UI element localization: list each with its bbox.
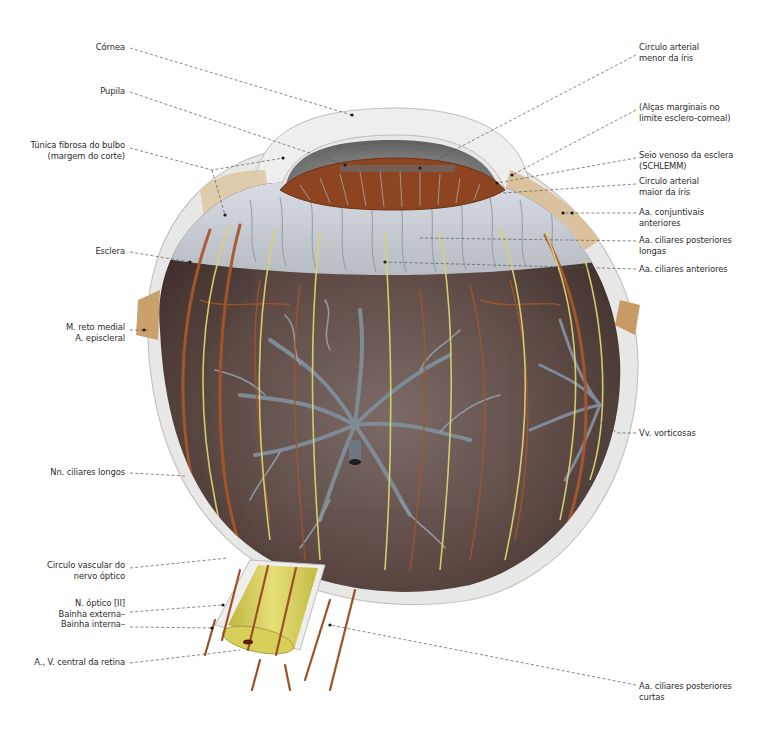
- eyeball-vascular-diagram: Córnea Pupila Túnica fibrosa do bulbo (m…: [0, 0, 767, 744]
- pupil-margin: [340, 165, 455, 172]
- label-esclera: Esclera: [95, 246, 125, 257]
- label-nn-ciliares-longos: Nn. ciliares longos: [50, 467, 125, 478]
- label-circulo-arterial-menor: Circulo arterial menor da íris: [639, 42, 699, 63]
- label-vv-vorticosas: Vv. vorticosas: [639, 428, 696, 439]
- label-aa-conjuntivais: Aa. conjuntivais anteriores: [639, 207, 704, 228]
- label-aa-ciliares-post-curtas: Aa. ciliares posteriores curtas: [639, 681, 732, 702]
- label-nervo-optico: N. óptico [II] Bainha externa– Bainha in…: [59, 598, 125, 630]
- label-pupila: Pupila: [100, 86, 125, 97]
- label-reto-medial: M. reto medial A. episcleral: [66, 322, 125, 343]
- label-av-central-retina: A., V. central da retina: [34, 657, 125, 668]
- label-circulo-vascular: Circulo vascular do nervo óptico: [47, 560, 125, 581]
- label-cornea: Córnea: [96, 42, 125, 53]
- label-tunica-fibrosa: Túnica fibrosa do bulbo (margem do corte…: [30, 140, 125, 161]
- label-aa-ciliares-anteriores: Aa. ciliares anteriores: [639, 264, 728, 275]
- label-aa-ciliares-post-longas: Aa. ciliares posteriores longas: [639, 235, 732, 256]
- label-seio-venoso: Seio venoso da esclera (SCHLEMM): [639, 150, 733, 171]
- label-alcas-marginais: (Alças marginais no limite esclero-corne…: [639, 102, 730, 123]
- label-circulo-arterial-maior: Circulo arterial maior da íris: [639, 176, 699, 197]
- vortex-vein-stump: [349, 440, 361, 462]
- rectus-medial-tendon: [136, 290, 160, 340]
